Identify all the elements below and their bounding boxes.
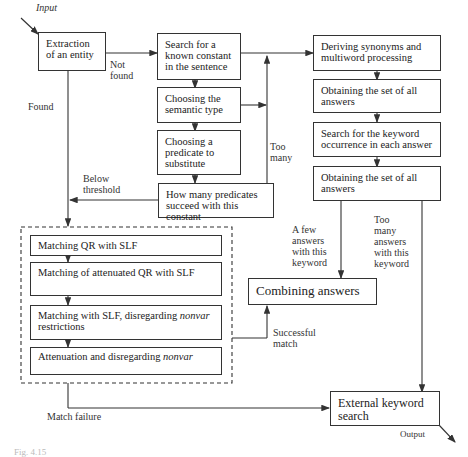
answers2-box: Obtaining the set of all answers bbox=[313, 166, 441, 201]
too-many-answers-label: Too many answers with this keyword bbox=[374, 214, 409, 269]
how-many-box: How many predicates succeed with this co… bbox=[158, 183, 274, 218]
predicate-box: Choosing a predicate to substitute bbox=[157, 130, 241, 175]
figure-caption: Fig. 4.15 bbox=[14, 447, 46, 457]
keyword-occurrence-box: Search for the keyword occurrence in eac… bbox=[313, 122, 441, 157]
match-attenuated-box: Matching of attenuated QR with SLF bbox=[30, 262, 222, 296]
input-label: Input bbox=[36, 2, 57, 13]
too-many-label: Too many bbox=[270, 141, 292, 163]
successful-match-label: Successful match bbox=[273, 327, 316, 349]
extraction-box: Extraction of an entity bbox=[38, 32, 106, 71]
not-found-label: Not found bbox=[110, 59, 133, 81]
below-threshold-label: Below threshold bbox=[83, 173, 120, 195]
answers1-box: Obtaining the set of all answers bbox=[313, 79, 441, 113]
match-nonvar-box: Matching with SLF, disregarding nonvar r… bbox=[30, 305, 222, 340]
match-failure-label: Match failure bbox=[47, 411, 101, 422]
semantic-type-box: Choosing the semantic type bbox=[157, 87, 241, 123]
output-label: Output bbox=[400, 429, 425, 440]
search-constant-box: Search for a known constant in the sente… bbox=[157, 33, 241, 80]
synonyms-box: Deriving synonyms and multiword processi… bbox=[313, 35, 441, 71]
attenuation-nonvar-box: Attenuation and disregarding nonvar bbox=[30, 347, 222, 375]
found-label: Found bbox=[28, 101, 54, 112]
a-few-answers-label: A few answers with this keyword bbox=[292, 224, 327, 268]
combining-answers-box: Combining answers bbox=[248, 278, 377, 305]
match-qr-box: Matching QR with SLF bbox=[30, 235, 222, 256]
external-search-box: External keyword search bbox=[330, 391, 440, 426]
